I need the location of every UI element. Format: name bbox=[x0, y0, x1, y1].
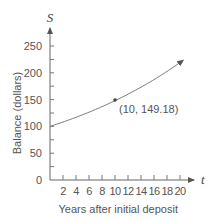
y-axis-title: Balance (dollars) bbox=[11, 72, 23, 155]
x-tick-label: 16 bbox=[148, 185, 160, 197]
x-tick-label: 6 bbox=[86, 185, 92, 197]
x-tick-label: 14 bbox=[135, 185, 147, 197]
y-tick-label: 250 bbox=[24, 40, 42, 52]
y-tick-label: 0 bbox=[36, 174, 42, 186]
y-tick-label: 100 bbox=[24, 120, 42, 132]
plot-area: 0501001502002502468101214161820StYears a… bbox=[11, 10, 205, 215]
x-tick-label: 12 bbox=[122, 185, 134, 197]
y-tick-label: 50 bbox=[30, 147, 42, 159]
x-tick-label: 18 bbox=[161, 185, 173, 197]
x-tick-label: 8 bbox=[99, 185, 105, 197]
balance-curve bbox=[50, 60, 183, 126]
y-tick-label: 200 bbox=[24, 67, 42, 79]
y-axis-variable: S bbox=[47, 10, 54, 25]
y-tick-label: 150 bbox=[24, 94, 42, 106]
x-tick-label: 2 bbox=[60, 185, 66, 197]
data-point bbox=[113, 98, 117, 102]
x-axis-variable: t bbox=[201, 172, 205, 187]
chart: 0501001502002502468101214161820StYears a… bbox=[0, 0, 214, 222]
x-tick-label: 4 bbox=[73, 185, 79, 197]
x-tick-label: 20 bbox=[174, 185, 186, 197]
point-annotation: (10, 149.18) bbox=[119, 103, 178, 115]
x-tick-label: 10 bbox=[109, 185, 121, 197]
x-axis-title: Years after initial deposit bbox=[59, 203, 178, 215]
